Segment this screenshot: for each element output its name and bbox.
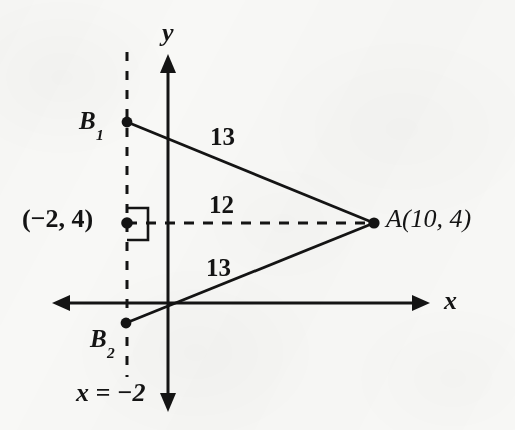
- point-b2-label: B2: [90, 326, 114, 356]
- figure-canvas: B1 B2 (−2, 4) A(10, 4) 13 12 13 x y x = …: [0, 0, 515, 430]
- point-b1-label: B1: [79, 108, 103, 138]
- segment-b1-to-a: [127, 122, 374, 223]
- point-a-marker: [368, 217, 379, 228]
- point-a-label: A(10, 4): [386, 206, 471, 232]
- point-b2-marker: [121, 318, 132, 329]
- segment-middle-length-label: 12: [209, 192, 234, 217]
- y-axis-label: y: [162, 20, 174, 46]
- x-axis: [52, 295, 430, 311]
- segment-b2-to-a: [126, 223, 374, 323]
- point-b1-marker: [122, 117, 133, 128]
- vertical-line-equation-label: x = −2: [76, 380, 146, 406]
- midpoint-coordinate-label: (−2, 4): [22, 206, 93, 232]
- point-midpoint-marker: [121, 217, 133, 229]
- x-axis-label: x: [444, 288, 457, 314]
- segment-upper-length-label: 13: [210, 124, 235, 149]
- segment-lower-length-label: 13: [206, 255, 231, 280]
- y-axis: [160, 54, 176, 412]
